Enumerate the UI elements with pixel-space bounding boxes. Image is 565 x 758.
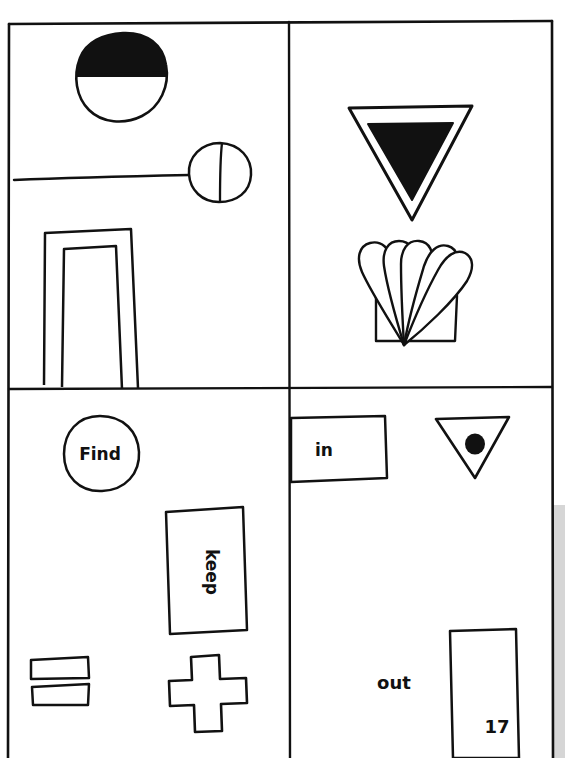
divider-vertical [289,22,290,758]
keep-label: keep [202,549,222,595]
out-label: out [377,672,411,693]
in-rectangle-outline [291,416,387,482]
fan-shell [359,241,472,345]
divided-circle [189,143,251,202]
keep-rectangle: keep [166,507,247,634]
in-label: in [315,440,333,460]
worksheet-page: Find keep in out 17 [0,0,565,758]
page-edge-shadow-soft [553,505,565,758]
page-number-label: 17 [484,716,509,737]
equals-bar-bottom [32,684,89,705]
in-rectangle: in [291,416,387,482]
triangle-dot [465,434,485,455]
find-circle: Find [64,416,139,491]
find-label: Find [79,444,121,464]
page-number-rectangle-outline [450,629,519,758]
equals-bar-top [31,657,89,679]
half-filled-circle [76,33,168,122]
page-number-rectangle: 17 [450,629,519,758]
worksheet-canvas: Find keep in out 17 [0,0,565,758]
